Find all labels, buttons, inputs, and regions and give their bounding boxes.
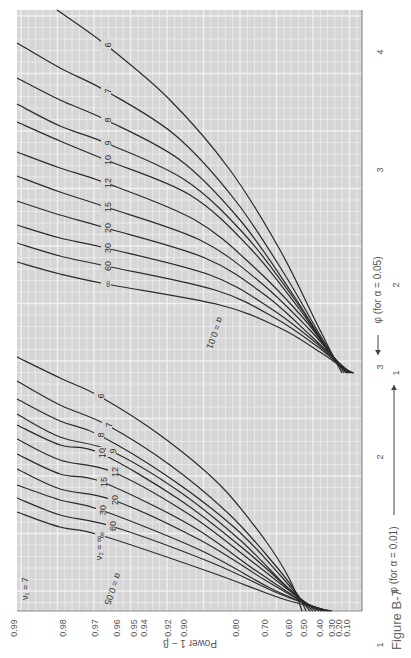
- nu1-label: ν₁ = 7: [20, 577, 30, 600]
- curve-label: 10: [97, 448, 107, 458]
- power-tick-label: 0.60: [284, 619, 294, 637]
- phi-arrows: [375, 335, 397, 515]
- power-tick-label: 0.99: [9, 619, 19, 637]
- curve-label: 60: [103, 261, 113, 271]
- curve-label: 8: [103, 117, 113, 122]
- curve-label: 30: [98, 505, 108, 515]
- phi-alpha-005-axis-title: φ (for α = 0.05): [372, 256, 383, 323]
- curve-label: ∞: [103, 281, 113, 287]
- power-tick-label: 0.94: [139, 619, 149, 637]
- curve-label: 20: [103, 223, 113, 233]
- phi-tick-label: 3: [375, 364, 385, 369]
- curve-label: 20: [110, 495, 120, 505]
- power-axis-title: Power 1 − β: [163, 638, 217, 649]
- power-tick-label: 0.95: [129, 619, 139, 637]
- curve-label: 60: [108, 521, 118, 531]
- phi-tick-label: 3: [375, 167, 385, 172]
- phi-tick-label: 2: [391, 282, 401, 287]
- curve-label: 9: [108, 448, 118, 453]
- power-tick-label: 0.96: [112, 619, 122, 637]
- power-tick-label: 0.10: [342, 619, 352, 637]
- curve-label: 7: [103, 88, 113, 93]
- phi-tick-label: 4: [375, 49, 385, 54]
- phi-tick-label: 1: [375, 642, 385, 647]
- nu2-label: ν₂ = ∞: [94, 536, 104, 561]
- curve-label: 6: [103, 42, 113, 47]
- phi-alpha-001-axis-title: φ (for α = 0.01): [388, 526, 399, 593]
- curve-label: 10: [103, 155, 113, 165]
- power-tick-label: 0.40: [315, 619, 325, 637]
- curve-label: 9: [103, 140, 113, 145]
- power-chart: 6789101215203060∞6789101215203060∞ 0.990…: [0, 0, 411, 658]
- figure-caption: Figure B-7: [389, 589, 404, 650]
- phi-tick-label: 2: [375, 454, 385, 459]
- power-tick-label: 0.90: [179, 619, 189, 637]
- curve-label: 15: [103, 202, 113, 212]
- curve-label: 12: [110, 467, 120, 477]
- phi-tick-label: 1: [391, 370, 401, 375]
- curve-label: 6: [96, 393, 106, 398]
- power-tick-label: 0.97: [90, 619, 100, 637]
- power-tick-label: 0.92: [163, 619, 173, 637]
- power-tick-label: 0.70: [260, 619, 270, 637]
- curve-label: 30: [103, 243, 113, 253]
- curve-label: 7: [104, 422, 114, 427]
- curve-label: 15: [99, 477, 109, 487]
- curve-label: 8: [96, 432, 106, 437]
- power-tick-label: 0.50: [299, 619, 309, 637]
- power-axis-ticks: 0.990.980.970.960.950.940.920.900.800.70…: [9, 619, 352, 637]
- curve-label: 12: [103, 178, 113, 188]
- power-tick-label: 0.98: [58, 619, 68, 637]
- power-tick-label: 0.80: [231, 619, 241, 637]
